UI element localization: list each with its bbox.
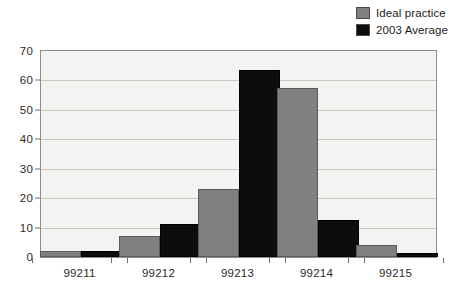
y-tick-label: 50 (20, 104, 33, 116)
bar-series-container (41, 51, 436, 257)
y-tick-label: 20 (20, 192, 33, 204)
x-tick-mark (364, 258, 365, 263)
x-tick-mark (443, 258, 444, 263)
x-tick-mark (32, 258, 33, 263)
bar-99212-ideal-practice (119, 236, 160, 257)
x-group-label-99215: 99215 (379, 267, 412, 279)
bar-99215-ideal-practice (356, 245, 397, 257)
y-axis: 010203040506070 (0, 50, 40, 258)
x-group-label-99214: 99214 (300, 267, 333, 279)
bar-99214-ideal-practice (277, 88, 318, 257)
x-axis: 9921199212992139921499215 (40, 258, 437, 288)
bar-99213-ideal-practice (198, 189, 239, 257)
x-tick-mark (348, 258, 349, 263)
x-tick-mark (206, 258, 207, 263)
legend-entry-ideal-practice: Ideal practice (356, 6, 446, 20)
y-tick-label: 30 (20, 163, 33, 175)
bar-chart-figure: Ideal practice 2003 Average 010203040506… (0, 0, 460, 291)
chart-legend: Ideal practice 2003 Average (356, 6, 448, 37)
x-group-label-99213: 99213 (221, 267, 254, 279)
legend-label-2003-average: 2003 Average (376, 24, 448, 36)
bar-99212-2003-average (160, 224, 201, 257)
bar-99215-2003-average (397, 253, 438, 257)
x-tick-mark (111, 258, 112, 263)
legend-entry-2003-average: 2003 Average (356, 23, 448, 37)
bar-99211-2003-average (81, 251, 122, 257)
x-tick-mark (190, 258, 191, 263)
legend-swatch-icon-2003-average (356, 24, 370, 36)
bar-99211-ideal-practice (40, 251, 81, 257)
x-tick-mark (269, 258, 270, 263)
y-tick-label: 70 (20, 45, 33, 57)
y-tick-label: 10 (20, 222, 33, 234)
bar-99213-2003-average (239, 70, 280, 257)
plot-area (40, 50, 437, 258)
legend-label-ideal-practice: Ideal practice (376, 7, 446, 19)
bar-99214-2003-average (318, 220, 359, 257)
x-tick-mark (285, 258, 286, 263)
x-tick-mark (127, 258, 128, 263)
legend-swatch-icon-ideal-practice (356, 7, 370, 19)
y-tick-label: 60 (20, 74, 33, 86)
x-group-label-99212: 99212 (142, 267, 175, 279)
y-tick-label: 40 (20, 133, 33, 145)
x-group-label-99211: 99211 (63, 267, 95, 279)
